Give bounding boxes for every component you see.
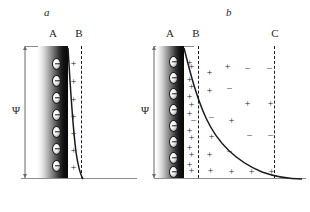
potential-curve — [150, 0, 310, 212]
double-layer-figure: a A B Ψ + + + + + + + — [0, 0, 310, 212]
potential-curve — [0, 0, 150, 212]
panel-a: a A B Ψ + + + + + + + — [0, 0, 150, 212]
psi-label: Ψ — [141, 104, 149, 116]
panel-b: b A B C Ψ ε ξ — [150, 0, 310, 212]
